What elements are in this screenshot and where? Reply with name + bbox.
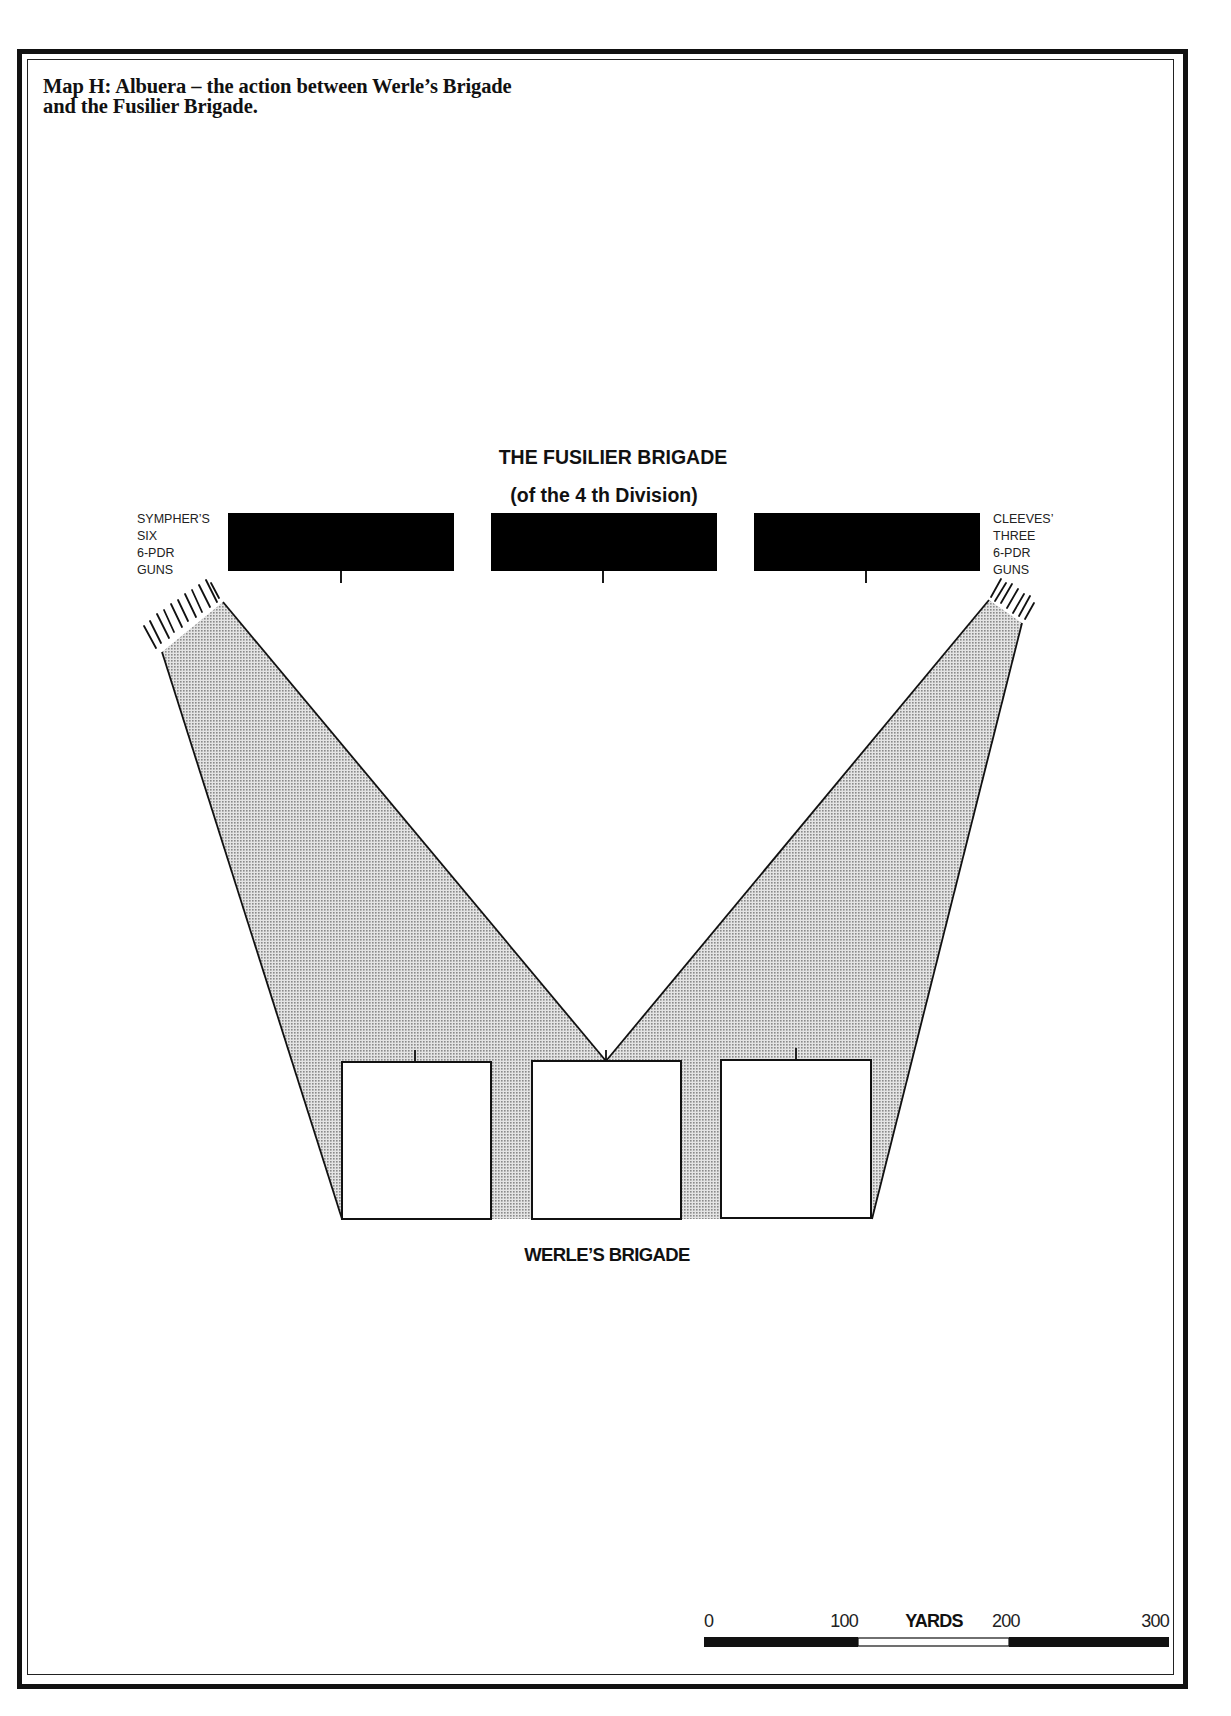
fusilier-brigade-subheading: (of the 4 th Division) [510, 484, 697, 506]
right-battery-label-line-4: GUNS [993, 563, 1029, 577]
fusilier-battalion-1 [228, 513, 454, 571]
fusilier-brigade-heading: THE FUSILIER BRIGADE [499, 446, 728, 468]
right-battery-label-line-1: CLEEVES’ [993, 512, 1053, 526]
left-battery-label-line-3: 6-PDR [137, 546, 175, 560]
scale-tick-100: 100 [830, 1611, 858, 1631]
werle-battalion-2 [532, 1061, 681, 1219]
scale-bar: 0 100 YARDS 200 300 [704, 1611, 1170, 1647]
fusilier-battalion-3 [754, 513, 980, 571]
scale-tick-200: 200 [992, 1611, 1020, 1631]
fusilier-battalion-2 [491, 513, 717, 571]
left-battery-label-line-4: GUNS [137, 563, 173, 577]
scale-tick-0: 0 [704, 1611, 714, 1631]
scale-tick-300: 300 [1141, 1611, 1169, 1631]
right-battery-label: CLEEVES’ THREE 6-PDR GUNS [993, 512, 1053, 577]
werle-battalion-1 [342, 1062, 491, 1219]
battle-map: THE FUSILIER BRIGADE (of the 4 th Divisi… [0, 0, 1231, 1716]
werle-brigade-label: WERLE’S BRIGADE [524, 1244, 690, 1265]
werle-brigade [342, 1048, 871, 1219]
werle-battalion-3 [721, 1060, 871, 1218]
scale-unit-label: YARDS [905, 1611, 963, 1631]
fusilier-brigade [228, 513, 980, 583]
right-battery-label-line-3: 6-PDR [993, 546, 1031, 560]
left-battery-label-line-1: SYMPHER’S [137, 512, 210, 526]
right-battery-label-line-2: THREE [993, 529, 1035, 543]
left-battery-label: SYMPHER’S SIX 6-PDR GUNS [137, 512, 210, 577]
left-battery-label-line-2: SIX [137, 529, 158, 543]
